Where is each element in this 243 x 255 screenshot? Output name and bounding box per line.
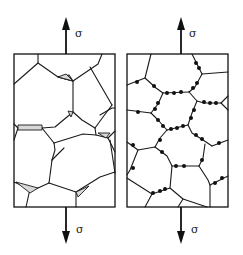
cavity — [194, 61, 198, 65]
cavity — [217, 141, 221, 145]
cavity — [161, 124, 165, 128]
bottom-stress-label: σ — [191, 223, 199, 236]
cavity — [195, 81, 199, 85]
cavity — [200, 158, 204, 162]
bottom-stress-arrow-icon — [62, 231, 70, 244]
cavities — [131, 61, 224, 195]
cavity — [160, 150, 164, 154]
cavity — [192, 108, 196, 112]
cavity — [189, 116, 193, 120]
wedge-crack — [18, 125, 42, 130]
cavity — [214, 101, 218, 105]
cavity — [163, 187, 167, 191]
cavity — [151, 191, 155, 195]
top-stress-arrow-icon — [177, 17, 185, 30]
cavity — [152, 84, 156, 88]
cavity — [179, 90, 183, 94]
cavity — [136, 110, 140, 114]
cavity — [156, 101, 160, 105]
cavity — [197, 66, 201, 70]
cavity — [156, 118, 160, 122]
cavity — [181, 124, 185, 128]
left-panel: σ — [14, 17, 115, 244]
bottom-stress-label: σ — [76, 223, 84, 236]
cavity — [175, 126, 179, 130]
cavity — [169, 127, 173, 131]
cavity — [191, 86, 195, 90]
cavity — [194, 133, 198, 137]
wedge-crack — [16, 182, 38, 193]
cavity — [131, 143, 135, 147]
cavity — [153, 107, 157, 111]
top-stress-label: σ — [75, 27, 83, 40]
cavity — [200, 137, 204, 141]
cavity — [158, 138, 162, 142]
right-panel: σ — [127, 17, 228, 244]
cavity — [208, 101, 212, 105]
cavity — [135, 80, 139, 84]
cavity — [220, 176, 224, 180]
cavity — [202, 100, 206, 104]
cavity — [165, 91, 169, 95]
bottom-stress-arrow-icon — [177, 231, 185, 244]
creep-damage-diagram: σ — [0, 0, 243, 255]
cavity — [213, 181, 217, 185]
cavity — [182, 164, 186, 168]
cavity — [174, 164, 178, 168]
top-stress-arrow-icon — [62, 17, 70, 30]
cavity — [158, 189, 162, 193]
top-stress-label: σ — [189, 27, 197, 40]
cavity — [172, 91, 176, 95]
grain-boundaries — [127, 54, 228, 207]
cavity — [131, 166, 135, 170]
